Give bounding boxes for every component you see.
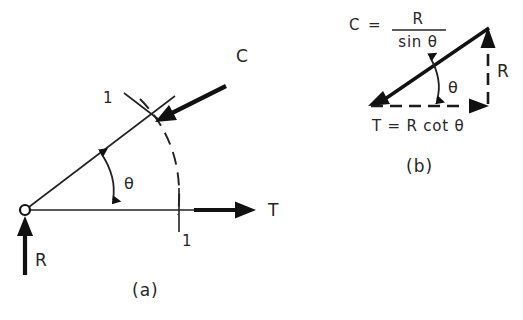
panel-a: C T R θ 1 1 (a) [17, 46, 279, 300]
pin-joint-icon [20, 205, 30, 215]
label-section-top: 1 [103, 89, 113, 107]
formula-equals-sign: = [368, 16, 381, 34]
force-r-arrow [17, 216, 33, 275]
inclined-member-line [25, 96, 175, 210]
triangle-vertical-r [481, 27, 496, 104]
label-angle-theta-b: θ [448, 78, 458, 97]
figure-root: C T R θ 1 1 (a) [0, 0, 523, 320]
section-tick-top [124, 93, 158, 119]
formula-denominator: sin θ [398, 33, 437, 51]
angle-arc-arrow [101, 153, 114, 200]
label-angle-theta-a: θ [124, 174, 134, 193]
label-force-t: T [267, 200, 279, 220]
triangle-base-t [371, 99, 489, 114]
formula-numerator: R [412, 10, 423, 28]
caption-panel-a: (a) [132, 280, 159, 300]
label-force-c: C [236, 46, 248, 66]
formula-t-equals: T = R cot θ [371, 117, 465, 135]
panel-b: C = R sin θ T = R cot θ R θ (b) [349, 10, 509, 176]
caption-panel-b: (b) [406, 156, 433, 176]
label-force-r: R [35, 250, 47, 270]
force-diagram-svg: C T R θ 1 1 (a) [0, 0, 523, 320]
formula-c-equals: C = R sin θ [349, 10, 446, 51]
formula-c-lhs: C [349, 16, 360, 34]
force-t-arrow [194, 202, 256, 219]
label-vertical-leg-r: R [497, 61, 509, 81]
label-section-bottom: 1 [182, 232, 192, 250]
